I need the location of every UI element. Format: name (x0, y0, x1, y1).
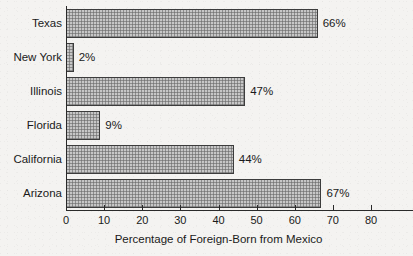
x-tick-40 (219, 205, 220, 211)
x-tick-30 (180, 205, 181, 211)
x-axis-title: Percentage of Foreign-Born from Mexico (0, 232, 413, 246)
x-axis-line (66, 210, 413, 211)
x-tick-label-80: 80 (365, 214, 377, 227)
category-label-wrap: Illinois (0, 77, 62, 106)
bar-texas (66, 9, 318, 38)
bar-value-florida: 9% (105, 119, 122, 132)
bar-value-arizona: 67% (326, 187, 349, 200)
bar-row: California44% (0, 145, 413, 174)
bar-chart: 01020304050607080 Texas66%New York2%Illi… (0, 0, 413, 256)
x-tick-label-10: 10 (98, 214, 110, 227)
bar-value-texas: 66% (323, 17, 346, 30)
bar-value-california: 44% (239, 153, 262, 166)
category-label-wrap: Texas (0, 9, 62, 38)
bar-arizona (66, 179, 321, 208)
x-tick-60 (295, 205, 296, 211)
bar-row: Texas66% (0, 9, 413, 38)
x-tick-10 (104, 205, 105, 211)
bar-illinois (66, 77, 245, 106)
bar-row: New York2% (0, 43, 413, 72)
category-label-new-york: New York (13, 51, 62, 64)
category-label-illinois: Illinois (30, 85, 62, 98)
category-label-california: California (13, 153, 62, 166)
bar-row: Arizona67% (0, 179, 413, 208)
x-tick-50 (257, 205, 258, 211)
x-tick-label-0: 0 (63, 214, 69, 227)
x-tick-label-60: 60 (289, 214, 301, 227)
category-label-arizona: Arizona (23, 187, 62, 200)
bar-florida (66, 111, 100, 140)
bar-value-new-york: 2% (79, 51, 96, 64)
bar-california (66, 145, 234, 174)
category-label-wrap: Florida (0, 111, 62, 140)
x-tick-20 (142, 205, 143, 211)
category-label-florida: Florida (27, 119, 62, 132)
x-tick-label-70: 70 (327, 214, 339, 227)
category-label-texas: Texas (32, 17, 62, 30)
category-label-wrap: California (0, 145, 62, 174)
bar-value-illinois: 47% (250, 85, 273, 98)
x-tick-80 (371, 205, 372, 211)
bar-new-york (66, 43, 74, 72)
x-tick-label-50: 50 (251, 214, 263, 227)
category-label-wrap: New York (0, 43, 62, 72)
category-label-wrap: Arizona (0, 179, 62, 208)
x-tick-label-20: 20 (136, 214, 148, 227)
bar-row: Florida9% (0, 111, 413, 140)
x-tick-70 (333, 205, 334, 211)
x-tick-label-40: 40 (212, 214, 224, 227)
x-tick-label-30: 30 (174, 214, 186, 227)
x-tick-0 (66, 205, 67, 211)
bar-row: Illinois47% (0, 77, 413, 106)
y-axis-line (66, 6, 67, 211)
